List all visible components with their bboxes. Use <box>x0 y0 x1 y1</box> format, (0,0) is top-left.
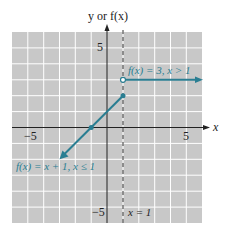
dashed-line-label: x = 1 <box>127 206 151 218</box>
series-label-linear: f(x) = x + 1, x ≤ 1 <box>16 160 95 173</box>
series-label-constant: f(x) = 3, x > 1 <box>128 64 191 77</box>
piecewise-function-graph: y or f(x) x 5 −5 −5 5 f(x) = 3, x > 1 f(… <box>0 0 226 233</box>
y-tick-label-neg5: −5 <box>92 205 105 219</box>
x-tick-label-5: 5 <box>183 129 189 143</box>
x-axis-label: x <box>212 120 219 134</box>
y-axis-arrow-icon <box>105 24 110 31</box>
open-endpoint-1-3 <box>121 77 126 82</box>
x-tick-label-neg5: −5 <box>24 129 37 143</box>
y-tick-label-5: 5 <box>97 40 103 54</box>
closed-endpoint-1-2 <box>121 93 126 98</box>
point-neg1-0 <box>89 125 94 130</box>
x-axis-arrow-icon <box>203 125 210 130</box>
y-axis-label: y or f(x) <box>88 9 128 23</box>
